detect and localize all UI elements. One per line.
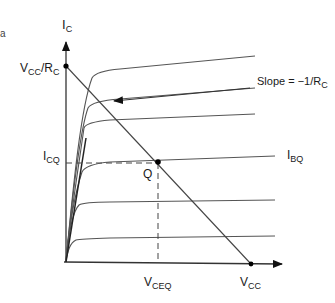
y-axis-label: IC	[62, 18, 72, 34]
vcc-label: VCC	[240, 276, 261, 291]
vcc-over-rc-label: VCC/RC	[20, 62, 60, 77]
q-point-dot	[155, 159, 161, 165]
curve-4	[66, 156, 275, 261]
vcc-dot	[249, 262, 254, 267]
curve-5	[66, 200, 275, 261]
ibq-label: IBQ	[287, 149, 303, 164]
curve-1	[66, 56, 255, 261]
vceq-label: VCEQ	[144, 276, 172, 291]
load-line-diagram: a IC VCC/RC Slope = −1/RC ICQ IBQ Q VCEQ…	[0, 0, 335, 303]
curve-2	[66, 88, 255, 261]
q-point-label: Q	[143, 168, 152, 180]
edge-text-fragment: a	[0, 28, 6, 39]
vcc-rc-dot	[63, 63, 68, 68]
slope-arrow	[114, 88, 250, 101]
icq-label: ICQ	[43, 150, 60, 165]
curve-6	[66, 236, 275, 261]
slope-label: Slope = −1/RC	[257, 76, 328, 90]
saturation-line	[66, 138, 86, 262]
characteristic-curves	[66, 56, 275, 261]
